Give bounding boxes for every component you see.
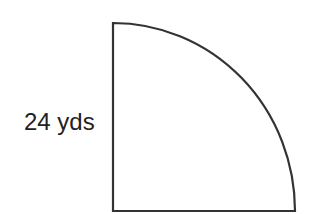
quarter-circle-figure (0, 0, 311, 214)
radius-label: 24 yds (24, 110, 95, 134)
quarter-circle-shape (113, 23, 295, 211)
